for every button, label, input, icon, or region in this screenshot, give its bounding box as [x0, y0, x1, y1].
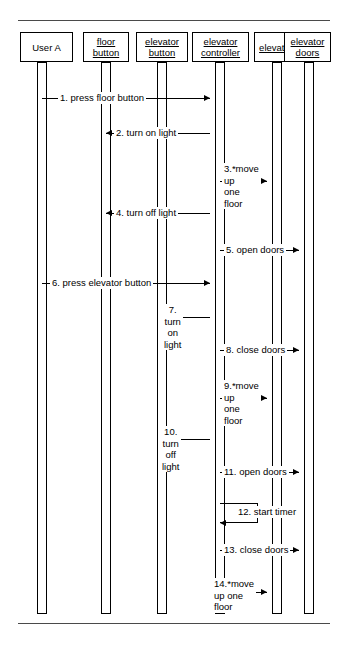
message-label-line: on [164, 327, 181, 339]
object-label-line: User A [32, 42, 61, 53]
object-label-line: button [93, 47, 119, 58]
message-label-line: one [224, 186, 259, 198]
message-label-line: up one [214, 590, 254, 602]
arrowhead-right-icon [261, 178, 267, 184]
message-label-line: 11. open doors [224, 466, 287, 478]
message-label-line: 3.*move [224, 163, 259, 175]
message-label-line: up [224, 392, 259, 404]
arrowhead-right-icon [204, 95, 210, 101]
arrowhead-right-icon [293, 347, 299, 353]
object-box-elevator-controller[interactable]: elevatorcontroller [192, 32, 249, 62]
arrowhead-right-icon [204, 280, 210, 286]
object-label-line: controller [201, 47, 240, 58]
message-label-line: off [162, 449, 179, 461]
message-label: 5. open doors [224, 244, 286, 256]
message-label: 13. close doors [222, 544, 290, 556]
message-label-line: floor [214, 601, 254, 613]
object-box-elevator-button[interactable]: elevatorbutton [136, 32, 188, 62]
bottom-divider-rule [18, 623, 330, 624]
message-label-line: floor [224, 415, 259, 427]
message-label-line: 9.*move [224, 380, 259, 392]
message-label-line: 8. close doors [226, 344, 285, 356]
message-label: 14.*moveup onefloor [212, 578, 256, 613]
message-label-line: floor [224, 198, 259, 210]
lifeline-elevator [272, 62, 282, 614]
message-label: 4. turn off light [114, 207, 178, 219]
message-label-line: 5. open doors [226, 244, 284, 256]
message-label: 9.*moveuponefloor [222, 380, 261, 426]
object-label-line: elevator [291, 36, 325, 47]
message-label: 1. press floor button [58, 92, 146, 104]
message-label-line: 12. start timer [238, 506, 296, 518]
message-label: 6. press elevator button [50, 277, 153, 289]
message-label-line: 6. press elevator button [52, 277, 151, 289]
lifeline-user-a [37, 62, 47, 614]
arrowhead-left-icon [106, 210, 112, 216]
arrowhead-right-icon [293, 547, 299, 553]
message-label-line: 14.*move [214, 578, 254, 590]
message-label-line: 2. turn on light [116, 127, 176, 139]
message-label: 7. turnonlight [162, 304, 183, 350]
message-label: 2. turn on light [114, 127, 178, 139]
lifeline-elevator-doors [304, 62, 314, 614]
message-label: 11. open doors [222, 466, 289, 478]
message-label: 3.*moveuponefloor [222, 163, 261, 209]
object-label-line: doors [296, 47, 320, 58]
message-label-line: light [162, 461, 179, 473]
arrowhead-right-icon [293, 469, 299, 475]
object-box-user-a[interactable]: User A [20, 32, 73, 62]
message-label-line: one [224, 403, 259, 415]
sequence-diagram-canvas: User Afloorbuttonelevatorbuttonelevatorc… [0, 0, 346, 645]
object-box-elevator-doors[interactable]: elevatordoors [284, 32, 331, 62]
message-label-line: light [164, 339, 181, 351]
object-label-line: elevator [145, 36, 179, 47]
lifeline-elevator-controller [215, 62, 225, 614]
message-label-line: 10. turn [162, 426, 179, 449]
arrowhead-left-icon [106, 130, 112, 136]
object-label-line: button [149, 47, 175, 58]
message-label: 8. close doors [224, 344, 287, 356]
object-box-floor-button[interactable]: floorbutton [83, 32, 129, 62]
message-label-line: 7. turn [164, 304, 181, 327]
message-label-line: 4. turn off light [116, 207, 176, 219]
object-label-line: floor [97, 36, 115, 47]
top-divider-rule [18, 20, 330, 21]
arrowhead-left-icon [220, 520, 226, 526]
message-label: 12. start timer [236, 506, 298, 518]
object-label-line: elevator [204, 36, 238, 47]
arrowhead-right-icon [293, 247, 299, 253]
lifeline-floor-button [101, 62, 111, 614]
message-label: 10. turnofflight [160, 426, 181, 472]
message-label-line: 13. close doors [224, 544, 288, 556]
arrowhead-right-icon [261, 395, 267, 401]
message-label-line: 1. press floor button [60, 92, 144, 104]
arrowhead-right-icon [261, 589, 267, 595]
message-label-line: up [224, 175, 259, 187]
